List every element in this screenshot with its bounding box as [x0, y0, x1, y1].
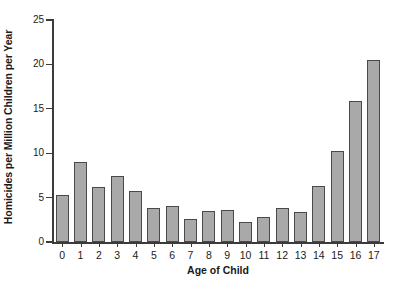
y-tick-label-wrap: 25 — [0, 15, 44, 25]
x-tick-mark — [81, 243, 82, 247]
bar-chart-figure: Homicides per Million Children per Year … — [0, 0, 395, 290]
bar — [331, 151, 344, 242]
y-tick-label-wrap: 5 — [0, 193, 44, 203]
y-tick-label: 20 — [2, 59, 44, 69]
bar — [56, 195, 69, 242]
x-tick-mark — [117, 243, 118, 247]
x-tick-mark — [136, 243, 137, 247]
x-tick-mark — [301, 243, 302, 247]
y-tick-label-wrap: 15 — [0, 104, 44, 114]
y-tick-mark — [46, 153, 53, 154]
y-tick-label-wrap: 20 — [0, 59, 44, 69]
x-axis-title: Age of Child — [53, 264, 383, 277]
y-tick-mark — [46, 197, 53, 198]
bar — [294, 212, 307, 242]
y-tick-mark — [46, 108, 53, 109]
bar — [367, 60, 380, 242]
bar — [129, 191, 142, 242]
bar — [92, 187, 105, 242]
x-tick-mark — [154, 243, 155, 247]
y-tick-label: 0 — [2, 237, 44, 247]
bar — [184, 219, 197, 242]
x-tick-label: 17 — [363, 249, 385, 261]
plot-area — [53, 20, 383, 242]
y-tick-label: 25 — [2, 15, 44, 25]
x-tick-mark — [374, 243, 375, 247]
x-tick-mark — [209, 243, 210, 247]
x-tick-mark — [227, 243, 228, 247]
x-axis-line — [52, 242, 384, 244]
bar — [147, 208, 160, 242]
y-axis-title: Homicides per Million Children per Year — [0, 2, 16, 252]
x-tick-mark — [172, 243, 173, 247]
x-tick-mark — [264, 243, 265, 247]
x-tick-mark — [246, 243, 247, 247]
x-tick-mark — [191, 243, 192, 247]
bar — [74, 162, 87, 242]
bar — [349, 101, 362, 242]
bar — [111, 176, 124, 242]
x-tick-mark — [99, 243, 100, 247]
x-tick-mark — [282, 243, 283, 247]
bar — [257, 217, 270, 242]
bar — [221, 210, 234, 242]
bar — [202, 211, 215, 242]
bar — [276, 208, 289, 242]
bar — [239, 222, 252, 242]
y-tick-label: 5 — [2, 193, 44, 203]
y-tick-label-wrap: 10 — [0, 148, 44, 158]
x-tick-mark — [319, 243, 320, 247]
y-tick-mark — [46, 64, 53, 65]
bar — [312, 186, 325, 242]
x-tick-mark — [337, 243, 338, 247]
y-tick-mark — [46, 241, 53, 242]
x-tick-mark — [62, 243, 63, 247]
y-tick-label: 10 — [2, 148, 44, 158]
bar — [166, 206, 179, 242]
y-tick-label: 15 — [2, 104, 44, 114]
y-tick-mark — [46, 19, 53, 20]
x-tick-mark — [356, 243, 357, 247]
y-tick-label-wrap: 0 — [0, 237, 44, 247]
